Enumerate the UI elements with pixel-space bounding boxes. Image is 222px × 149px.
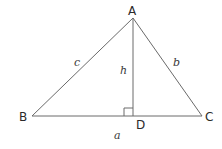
side-c-line bbox=[32, 18, 133, 116]
side-label-h: h bbox=[120, 64, 127, 77]
vertex-label-a: A bbox=[128, 4, 137, 18]
vertex-label-c: C bbox=[205, 110, 213, 124]
vertex-label-b: B bbox=[19, 110, 27, 124]
side-label-a: a bbox=[114, 129, 121, 142]
right-angle-marker bbox=[124, 108, 133, 116]
side-label-b: b bbox=[173, 56, 180, 69]
side-label-c: c bbox=[74, 56, 80, 69]
vertex-label-d: D bbox=[136, 118, 145, 132]
triangle-diagram: A B C D c h b a bbox=[0, 0, 222, 149]
side-b-line bbox=[133, 18, 202, 116]
